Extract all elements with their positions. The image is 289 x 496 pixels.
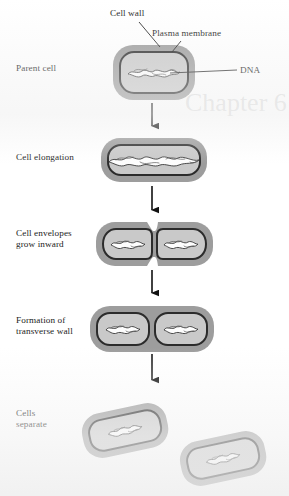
stage-label-cell-elongation: Cell elongation — [16, 152, 74, 163]
stage-cell-formation-of-transverse-wall — [90, 306, 214, 352]
stage-cell-cell-elongation — [101, 138, 207, 182]
stage-label-formation-of-transverse-wall: Formation of transverse wall — [16, 315, 73, 337]
stage-label-cell-envelopes-grow-inward: Cell envelopes grow inward — [16, 228, 72, 250]
callout-label-cell-wall: Cell wall — [110, 8, 144, 18]
stage-cell-cells-separate-left — [78, 400, 171, 462]
callout-label-dna: DNA — [240, 65, 260, 75]
stage-cell-cells-separate-right — [176, 428, 269, 490]
stage-label-cells-separate: Cells separate — [16, 408, 47, 430]
binary-fission-figure: Chapter 6 Parent cell Cell elongation Ce… — [0, 0, 289, 496]
stage-cell-cell-envelopes-grow-inward — [96, 222, 213, 266]
stage-label-parent-cell: Parent cell — [16, 63, 56, 74]
callout-label-plasma-membrane: Plasma membrane — [152, 28, 221, 38]
